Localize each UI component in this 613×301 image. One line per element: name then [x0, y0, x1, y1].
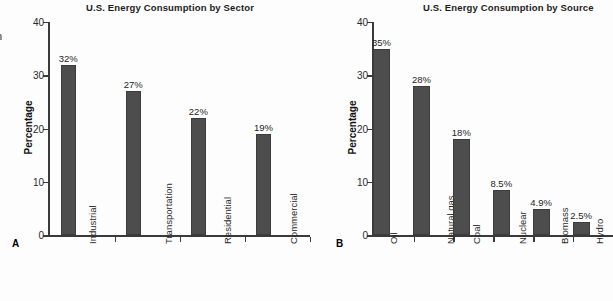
x-tick-mark: [573, 237, 574, 242]
x-tick-mark: [493, 237, 494, 242]
bar-natural-gas[interactable]: 28%: [413, 86, 430, 235]
bar-residential[interactable]: 22%: [191, 118, 206, 235]
y-axis-title-b: Percentage: [347, 88, 358, 168]
bar-hydro[interactable]: 2.5%: [573, 222, 590, 235]
bar-nuclear[interactable]: 8.5%: [493, 190, 510, 235]
y-tick-label: 30: [357, 70, 368, 81]
y-axis-title-a: Percentage: [23, 88, 34, 168]
x-category-label: Biomass: [559, 208, 570, 244]
bar-transportation[interactable]: 27%: [126, 91, 141, 235]
x-category-label: Coal: [471, 224, 482, 244]
x-category-label: Oil: [387, 232, 398, 244]
bar-commercial[interactable]: 19%: [256, 134, 271, 235]
y-tick-label: 40: [33, 17, 44, 28]
bar-value-label: 18%: [452, 127, 471, 138]
x-category-label: Hydro: [594, 219, 605, 244]
panel-a: U.S. Energy Consumption by Sector A Perc…: [0, 0, 330, 301]
x-tick-mark: [310, 237, 311, 242]
bar-value-label: 8.5%: [490, 178, 512, 189]
x-category-label: Industrial: [87, 205, 98, 244]
y-axis-line-a: [48, 22, 50, 237]
bar-value-label: 32%: [59, 53, 78, 64]
x-category-label: Residential: [222, 197, 233, 244]
x-category-label: Nuclear: [518, 211, 529, 244]
bar-value-label: 35%: [372, 37, 391, 48]
x-tick-mark: [245, 237, 246, 242]
x-tick-mark: [115, 237, 116, 242]
figure-two-panel-bar-charts: n U.S. Energy Consumption by Sector A Pe…: [0, 0, 613, 301]
chart-title-a: U.S. Energy Consumption by Sector: [86, 2, 254, 13]
y-tick-label: 40: [357, 17, 368, 28]
bar-value-label: 2.5%: [570, 210, 592, 221]
y-tick-label: 10: [357, 177, 368, 188]
chart-title-b: U.S. Energy Consumption by Source: [423, 2, 594, 13]
panel-label-a: A: [12, 238, 19, 249]
panel-b: U.S. Energy Consumption by Source B Perc…: [330, 0, 613, 301]
x-tick-mark: [180, 237, 181, 242]
x-tick-mark: [414, 237, 415, 242]
plot-area-a: 01020304032%Industrial27%Transportation2…: [48, 22, 310, 237]
y-tick-label: 20: [357, 123, 368, 134]
y-tick-label: 0: [362, 230, 368, 241]
bar-value-label: 27%: [124, 79, 143, 90]
bar-industrial[interactable]: 32%: [61, 65, 76, 236]
x-category-label: Transportation: [164, 183, 175, 244]
y-tick-label: 0: [38, 230, 44, 241]
bar-value-label: 4.9%: [530, 197, 552, 208]
y-tick-label: 30: [33, 70, 44, 81]
bar-coal[interactable]: 18%: [453, 139, 470, 235]
x-tick-mark: [533, 237, 534, 242]
x-category-label: Commercial: [289, 193, 300, 244]
y-tick-label: 10: [33, 177, 44, 188]
bar-value-label: 28%: [412, 74, 431, 85]
bar-value-label: 19%: [254, 122, 273, 133]
bar-oil[interactable]: 35%: [373, 49, 390, 236]
panel-label-b: B: [336, 238, 343, 249]
bar-value-label: 22%: [189, 106, 208, 117]
y-tick-label: 20: [33, 123, 44, 134]
bar-biomass[interactable]: 4.9%: [533, 209, 550, 235]
plot-area-b: 01020304035%Oil28%Natural gas18%Coal8.5%…: [372, 22, 613, 237]
